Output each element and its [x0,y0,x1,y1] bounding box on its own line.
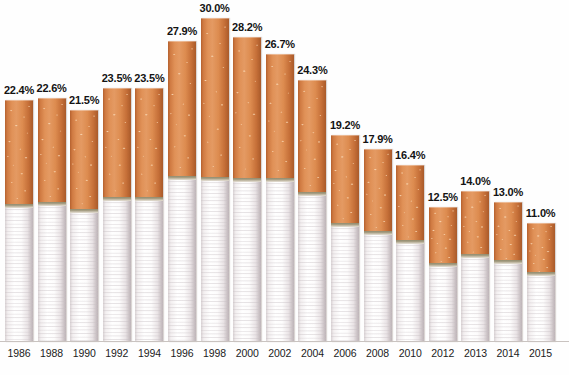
cigarette-filter [364,149,392,235]
bar-value-label: 30.0% [199,2,229,14]
cigarette-band [233,178,261,182]
bar-value-label: 27.9% [167,25,197,37]
cigarette-band [396,240,424,244]
x-axis-tick-label: 1988 [40,347,63,359]
cigarette-band [201,177,229,181]
bar-value-label: 26.7% [265,38,295,50]
cigarette-bar[interactable] [331,135,359,342]
cigarette-bar[interactable] [168,41,196,342]
bar-value-label: 21.5% [69,94,99,106]
x-axis-tick-label: 2015 [529,347,552,359]
bar-group [266,1,294,342]
cigarette-paper [135,200,163,342]
x-axis-tick-label: 2004 [301,347,324,359]
bar-group [298,1,326,342]
bar-value-label: 23.5% [102,72,132,84]
cigarette-paper [461,257,489,342]
bar-group [364,1,392,342]
bar-value-label: 19.2% [330,119,360,131]
cigarette-bar-chart: 22.4%22.6%21.5%23.5%23.5%27.9%30.0%28.2%… [0,0,569,375]
cigarette-band [38,202,66,206]
cigarette-band [168,176,196,180]
cigarette-bar[interactable] [70,110,98,342]
cigarette-bar[interactable] [38,98,66,342]
x-axis-tick-label: 2010 [399,347,422,359]
cigarette-bar[interactable] [233,37,261,342]
x-axis-tick-label: 2013 [464,347,487,359]
cigarette-paper [429,266,457,342]
cigarette-bar[interactable] [364,149,392,342]
cigarette-paper [396,243,424,342]
cigarette-filter [429,207,457,267]
cigarette-paper [5,207,33,342]
bar-group [168,1,196,342]
cigarette-filter [266,54,294,182]
cigarette-bar[interactable] [396,165,424,342]
cigarette-band [266,178,294,182]
cigarette-filter [298,80,326,196]
x-axis-tick-label: 2002 [268,347,291,359]
cigarette-filter [168,41,196,181]
x-axis-labels: 1986198819901992199419961998200020022004… [0,343,569,375]
bar-group [331,1,359,342]
cigarette-paper [364,234,392,342]
cigarette-filter [396,165,424,244]
x-axis-tick-label: 2006 [334,347,357,359]
bar-group [38,1,66,342]
cigarette-band [527,272,555,276]
x-axis-tick-label: 1998 [203,347,226,359]
cigarette-bar[interactable] [5,100,33,342]
cigarette-bar[interactable] [135,88,163,342]
bar-group [135,1,163,342]
bar-value-label: 13.0% [493,186,523,198]
cigarette-paper [233,181,261,342]
cigarette-paper [266,181,294,342]
bar-group [396,1,424,342]
x-axis-tick-label: 2014 [497,347,520,359]
cigarette-filter [233,37,261,181]
bar-value-label: 12.5% [428,191,458,203]
cigarette-paper [201,180,229,342]
bar-group [201,1,229,342]
bar-group [527,1,555,342]
x-axis-tick-label: 1990 [73,347,96,359]
bar-value-label: 22.6% [36,82,66,94]
x-axis-tick-label: 1996 [171,347,194,359]
cigarette-bar[interactable] [461,191,489,342]
cigarette-filter [70,110,98,213]
cigarette-bar[interactable] [429,207,457,342]
cigarette-band [103,197,131,201]
cigarette-bar[interactable] [103,88,131,342]
cigarette-bar[interactable] [527,223,555,342]
cigarette-paper [298,195,326,342]
x-axis-tick-label: 2000 [236,347,259,359]
cigarette-bar[interactable] [298,80,326,342]
cigarette-band [331,223,359,227]
cigarette-paper [331,226,359,342]
cigarette-filter [527,223,555,276]
plot-area: 22.4%22.6%21.5%23.5%23.5%27.9%30.0%28.2%… [0,0,569,342]
cigarette-band [461,254,489,258]
cigarette-filter [38,98,66,206]
cigarette-band [298,192,326,196]
cigarette-paper [494,263,522,342]
cigarette-band [494,260,522,264]
cigarette-bar[interactable] [266,54,294,342]
cigarette-paper [70,212,98,342]
cigarette-filter [461,191,489,259]
cigarette-filter [331,135,359,227]
bar-group [429,1,457,342]
bar-value-label: 23.5% [134,72,164,84]
cigarette-bar[interactable] [494,202,522,342]
bar-group [5,1,33,342]
x-axis-tick-label: 1994 [138,347,161,359]
cigarette-filter [5,100,33,207]
x-axis-baseline [0,341,569,342]
bar-group [103,1,131,342]
cigarette-filter [135,88,163,201]
cigarette-paper [168,179,196,342]
cigarette-band [364,231,392,235]
cigarette-bar[interactable] [201,18,229,342]
bar-value-label: 11.0% [526,207,556,219]
x-axis-tick-label: 1992 [105,347,128,359]
